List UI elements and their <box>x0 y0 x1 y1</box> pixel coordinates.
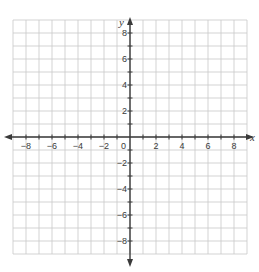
x-tick-label: 8 <box>231 141 236 151</box>
y-tick-label: −8 <box>117 236 127 246</box>
x-tick-label: 4 <box>179 141 184 151</box>
y-axis-label: y <box>118 16 124 28</box>
y-axis-down-arrow-icon <box>127 259 133 267</box>
y-tick-label: −4 <box>117 184 127 194</box>
x-tick-label: −6 <box>47 141 57 151</box>
y-tick-label: 4 <box>122 80 127 90</box>
x-tick-label: −2 <box>99 141 109 151</box>
y-axis-up-arrow-icon <box>127 17 133 25</box>
y-tick-label: 2 <box>122 106 127 116</box>
x-tick-label: 2 <box>153 141 158 151</box>
y-tick-label: −6 <box>117 210 127 220</box>
x-axis-label: x <box>249 131 255 143</box>
y-tick-label: −2 <box>117 158 127 168</box>
y-tick-label: 6 <box>122 54 127 64</box>
axes <box>4 17 254 267</box>
origin-label: 0 <box>121 141 126 151</box>
x-axis-left-arrow-icon <box>4 134 12 140</box>
coordinate-plane: −8−6−4−224688642−2−4−6−80 x y <box>0 0 259 272</box>
x-tick-label: 6 <box>205 141 210 151</box>
x-tick-label: −8 <box>21 141 31 151</box>
x-tick-label: −4 <box>73 141 83 151</box>
y-tick-label: 8 <box>122 28 127 38</box>
